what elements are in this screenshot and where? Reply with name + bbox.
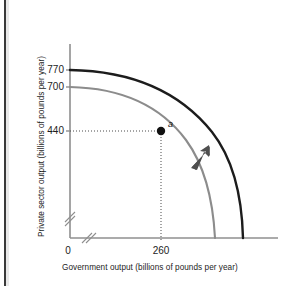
ppf-curve-shifted <box>70 70 243 238</box>
x-tick-label-260: 260 <box>146 245 176 256</box>
point-a-label: a <box>168 119 173 129</box>
ppf-chart-figure: 770 700 440 0 260 a Private sector outpu… <box>0 0 282 286</box>
x-tick-label-origin: 0 <box>58 245 78 256</box>
ppf-curve-original <box>70 87 215 238</box>
y-axis-title: Private sector output (billions of pound… <box>37 56 46 237</box>
x-axis-title: Government output (billions of pounds pe… <box>62 263 238 272</box>
point-a-marker <box>157 127 165 135</box>
